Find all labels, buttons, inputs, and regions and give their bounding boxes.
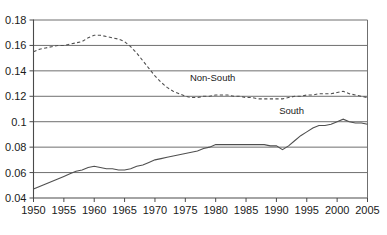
x-tick-label: 1975 [173, 204, 197, 216]
series-line-non-south [34, 35, 368, 99]
line-chart: 0.040.060.080.10.120.140.160.18195019551… [0, 0, 387, 235]
x-tick-label: 1950 [21, 204, 45, 216]
series-annotation-non-south: Non-South [190, 72, 235, 83]
x-tick-label: 2005 [355, 204, 379, 216]
y-tick-label: 0.18 [5, 14, 26, 26]
x-tick-label: 1985 [234, 204, 258, 216]
y-tick-label: 0.12 [5, 90, 26, 102]
x-tick-label: 1955 [52, 204, 76, 216]
x-tick-label: 1970 [143, 204, 167, 216]
y-tick-label: 0.16 [5, 39, 26, 51]
x-tick-label: 1980 [203, 204, 227, 216]
x-tick-label: 1990 [264, 204, 288, 216]
x-tick-label: 1960 [82, 204, 106, 216]
x-tick-label: 1995 [295, 204, 319, 216]
series-line-south [34, 119, 368, 189]
y-tick-label: 0.14 [5, 65, 26, 77]
y-tick-label: 0.06 [5, 167, 26, 179]
x-tick-label: 1965 [112, 204, 136, 216]
chart-container: 0.040.060.080.10.120.140.160.18195019551… [0, 0, 387, 235]
y-tick-label: 0.04 [5, 192, 26, 204]
x-tick-label: 2000 [325, 204, 349, 216]
y-tick-label: 0.08 [5, 141, 26, 153]
series-annotation-south: South [279, 105, 304, 116]
y-tick-label: 0.1 [11, 116, 26, 128]
